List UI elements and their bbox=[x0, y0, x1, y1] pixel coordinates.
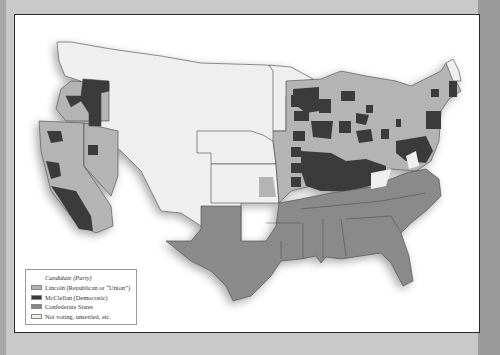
legend-item-mcclellan: McClellan (Democratic) bbox=[31, 293, 131, 303]
legend-swatch bbox=[31, 295, 42, 300]
legend-item-not-voting: Not voting, unsettled, etc. bbox=[31, 312, 131, 322]
legend-swatch bbox=[31, 304, 42, 309]
map-frame: Candidate (Party) Lincoln (Republican or… bbox=[14, 14, 480, 333]
legend-label: McClellan (Democratic) bbox=[45, 294, 108, 301]
page-edge-left bbox=[0, 0, 6, 355]
legend-label: Not voting, unsettled, etc. bbox=[45, 313, 111, 320]
legend-title: Candidate (Party) bbox=[45, 274, 131, 281]
page-edge-right bbox=[478, 0, 500, 355]
legend-swatch bbox=[31, 314, 42, 319]
map-legend: Candidate (Party) Lincoln (Republican or… bbox=[25, 269, 137, 325]
legend-swatch bbox=[31, 285, 42, 290]
legend-label: Confederate States bbox=[45, 303, 93, 310]
legend-item-confederate: Confederate States bbox=[31, 302, 131, 312]
legend-item-lincoln: Lincoln (Republican or “Union”) bbox=[31, 283, 131, 293]
legend-label: Lincoln (Republican or “Union”) bbox=[45, 284, 130, 291]
